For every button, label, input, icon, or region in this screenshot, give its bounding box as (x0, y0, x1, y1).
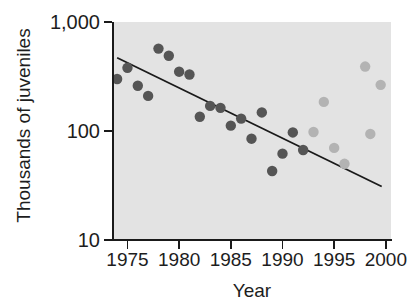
x-axis-line (112, 239, 392, 241)
data-point (298, 145, 308, 155)
x-axis-tick (282, 241, 284, 249)
data-point (277, 148, 287, 158)
data-point (288, 127, 298, 137)
plot-svg (113, 22, 391, 240)
x-axis-tick-label: 1980 (158, 250, 200, 269)
data-point (365, 129, 375, 139)
data-point (164, 51, 174, 61)
y-axis-tick (104, 130, 112, 132)
x-axis-tick-label: 1975 (106, 250, 148, 269)
plot-area (113, 22, 391, 240)
x-axis-tick (230, 241, 232, 249)
y-axis-line (112, 22, 114, 240)
x-axis-tick-label: 1985 (210, 250, 252, 269)
chart-figure: 101001,000197519801985199019952000 Thous… (0, 0, 411, 307)
data-point (329, 143, 339, 153)
y-axis-tick-label: 1,000 (50, 12, 100, 32)
data-point (205, 101, 215, 111)
data-point (257, 107, 267, 117)
data-point (153, 43, 163, 53)
x-axis-tick (178, 241, 180, 249)
data-point (308, 127, 318, 137)
data-point (226, 120, 236, 130)
y-axis-tick (104, 239, 112, 241)
y-axis-tick-label: 100 (67, 121, 100, 141)
data-point (122, 63, 132, 73)
x-axis-tick (127, 241, 129, 249)
x-axis-tick-label: 1995 (313, 250, 355, 269)
data-point (133, 81, 143, 91)
x-axis-tick (385, 241, 387, 249)
y-axis-title: Thousands of juveniles (14, 16, 33, 236)
data-point (339, 159, 349, 169)
data-point (236, 113, 246, 123)
data-point (360, 61, 370, 71)
data-point (215, 103, 225, 113)
data-point (267, 166, 277, 176)
x-axis-tick-label: 1990 (261, 250, 303, 269)
y-axis-tick-label: 10 (78, 230, 100, 250)
x-axis-tick (333, 241, 335, 249)
data-point (319, 97, 329, 107)
data-point (246, 133, 256, 143)
data-point (184, 69, 194, 79)
y-axis-tick (104, 21, 112, 23)
x-axis-tick-label: 2000 (365, 250, 407, 269)
data-point (195, 112, 205, 122)
x-axis-title: Year (113, 281, 391, 300)
data-point (143, 91, 153, 101)
data-point (174, 66, 184, 76)
data-point (375, 80, 385, 90)
